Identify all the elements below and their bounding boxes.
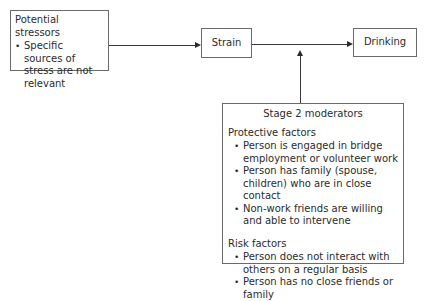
risk-factors-heading: Risk factors [228,238,398,251]
connector-moderators-link [300,56,301,103]
drinking-label: Drinking [364,36,406,49]
drinking-box: Drinking [353,28,417,57]
protective-factors-list: Person is engaged in bridge employment o… [234,140,398,228]
protective-factors-heading: Protective factors [228,127,398,140]
stage2-moderators-box: Stage 2 moderators Protective factors Pe… [222,103,404,264]
risk-factor-item: Person does not interact with others on … [234,251,398,276]
potential-stressors-box: Potential stressors Specific sources of … [10,10,109,71]
protective-factor-item: Person has family (spouse, children) who… [234,165,398,203]
strain-box: Strain [201,28,252,58]
moderators-title: Stage 2 moderators [228,108,398,121]
risk-factor-item: Person has no close friends or family [234,276,398,301]
stressors-item: Specific sources of stress are not relev… [15,40,104,90]
stressors-list: Specific sources of stress are not relev… [15,40,104,90]
risk-factors-list: Person does not interact with others on … [234,251,398,301]
arrowhead-up-icon [297,50,303,56]
stressors-title: Potential stressors [15,14,104,39]
protective-factor-item: Person is engaged in bridge employment o… [234,140,398,165]
strain-label: Strain [212,37,242,50]
protective-factor-item: Non-work friends are willing and able to… [234,203,398,228]
connector-stressors-strain [109,45,195,46]
connector-strain-drinking [252,44,347,45]
